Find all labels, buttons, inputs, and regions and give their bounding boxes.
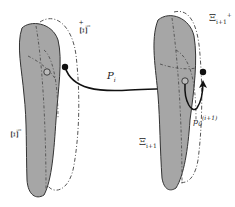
local-point-label: p0(i+1) xyxy=(193,115,217,127)
diagram-canvas xyxy=(0,0,235,207)
left-region-label: Ξi xyxy=(10,129,22,138)
right-open-point xyxy=(182,78,188,84)
transfer-arrow-label: Pi xyxy=(107,71,116,83)
left-outline-label: Ξi+ xyxy=(78,20,91,34)
left-open-point xyxy=(44,69,50,75)
right-region-label: Ξi+1 xyxy=(139,137,157,149)
left-region-shape xyxy=(19,24,60,197)
right-outline-label: Ξi+1+ xyxy=(209,12,232,25)
right-filled-point xyxy=(200,69,206,75)
